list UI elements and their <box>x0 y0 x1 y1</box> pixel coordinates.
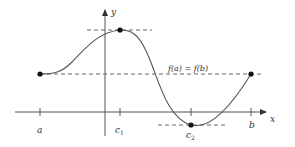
y-axis-label: y <box>110 7 117 17</box>
point-c1-max <box>117 27 122 32</box>
point-c2-min <box>188 122 193 127</box>
tick-label-c1: c1 <box>115 125 124 136</box>
equal-values-annotation: f(a) = f(b) <box>167 64 208 73</box>
point-a <box>37 71 42 76</box>
rolle-diagram: y x a c1 c2 b f(a) = f(b) <box>0 0 295 147</box>
tick-label-b: b <box>249 120 255 130</box>
x-axis-label: x <box>270 114 275 124</box>
tick-label-a: a <box>37 125 42 135</box>
function-curve <box>40 30 251 126</box>
tick-label-c2: c2 <box>186 130 195 141</box>
point-b <box>248 71 253 76</box>
